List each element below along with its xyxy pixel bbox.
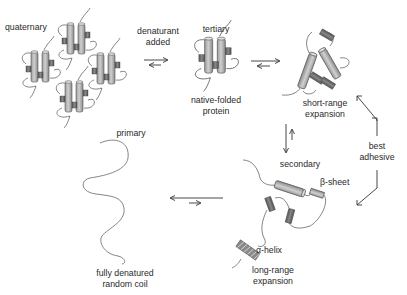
denaturant-label-line2: added bbox=[134, 36, 182, 47]
beta-sheet-label: β-sheet bbox=[320, 176, 349, 187]
alpha-helix-label: α-helix bbox=[256, 244, 282, 255]
equilibrium-arrow-2 bbox=[251, 59, 280, 69]
fully-denatured-label-line2: random coil bbox=[84, 278, 167, 289]
short-range-expansion-structure bbox=[282, 29, 349, 95]
protein-denaturation-diagram: quaternary denaturant added tertiary nat… bbox=[0, 0, 407, 295]
native-folded-label-line2: protein bbox=[183, 105, 249, 116]
best-adhesive-label-line2: adhesive bbox=[357, 151, 397, 162]
long-range-label-line1: long-range bbox=[243, 264, 304, 275]
quaternary-label: quaternary bbox=[5, 21, 47, 32]
primary-label: primary bbox=[108, 127, 154, 138]
short-range-label-line1: short-range bbox=[293, 97, 357, 108]
native-folded-label-line1: native-folded bbox=[183, 94, 249, 105]
equilibrium-arrow-1 bbox=[144, 58, 168, 68]
secondary-label: secondary bbox=[272, 158, 327, 169]
primary-random-coil bbox=[83, 140, 128, 264]
short-range-label-line2: expansion bbox=[293, 108, 357, 119]
fully-denatured-label-line1: fully denatured bbox=[84, 267, 167, 278]
long-range-label-line2: expansion bbox=[243, 275, 304, 286]
tertiary-label: tertiary bbox=[188, 23, 243, 34]
best-adhesive-label-line1: best bbox=[357, 140, 397, 151]
equilibrium-arrow-3 bbox=[284, 124, 295, 153]
denaturant-label-line1: denaturant bbox=[134, 25, 182, 36]
equilibrium-arrow-4 bbox=[170, 196, 223, 206]
diagram-canvas bbox=[0, 0, 407, 295]
